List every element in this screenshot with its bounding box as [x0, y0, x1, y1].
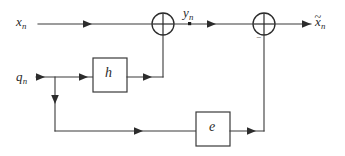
arrowhead-xn-path	[83, 20, 92, 28]
arrowhead-into-e	[134, 127, 143, 135]
arrowhead-branch-down	[51, 95, 59, 104]
label-adder2-minus-sign: −	[256, 33, 261, 42]
block-diagram: xn yn ~xn qn h e −	[0, 0, 345, 156]
label-output-x-tilde: ~xn	[315, 15, 325, 28]
arrowhead-into-h	[79, 73, 88, 81]
arrowhead-qn-input	[36, 73, 45, 81]
arrowhead-h-output	[143, 73, 152, 81]
label-block-e: e	[209, 120, 215, 134]
label-signal-yn: yn	[183, 6, 193, 19]
label-input-xn: xn	[16, 15, 26, 28]
arrowhead-yn-path	[207, 20, 216, 28]
arrowhead-e-output	[247, 127, 256, 135]
diagram-canvas	[0, 0, 345, 156]
arrowhead-output	[302, 20, 311, 28]
junction-dot-yn	[188, 22, 191, 25]
label-input-qn: qn	[16, 70, 27, 83]
label-block-h: h	[105, 66, 112, 80]
